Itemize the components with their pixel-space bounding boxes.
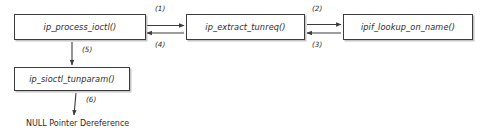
edge-label-2: (2) bbox=[312, 5, 322, 12]
edge-label-3: (3) bbox=[312, 41, 322, 48]
call-flow-diagram: ip_process_ioctl() ip_extract_tunreq() i… bbox=[0, 0, 488, 135]
node-label: ip_sioctl_tunparam() bbox=[29, 75, 115, 83]
node-ip-process-ioctl[interactable]: ip_process_ioctl() bbox=[14, 14, 146, 40]
node-label: ip_extract_tunreq() bbox=[205, 23, 285, 31]
edge-label-6: (6) bbox=[86, 96, 96, 103]
terminal-null-pointer-dereference: NULL Pointer Dereference bbox=[26, 120, 129, 128]
edge-label-4: (4) bbox=[155, 41, 165, 48]
node-ipif-lookup-on-name[interactable]: ipif_lookup_on_name() bbox=[343, 14, 473, 40]
edge-label-5: (5) bbox=[82, 46, 92, 53]
node-ip-extract-tunreq[interactable]: ip_extract_tunreq() bbox=[186, 14, 305, 40]
node-ip-sioctl-tunparam[interactable]: ip_sioctl_tunparam() bbox=[14, 67, 130, 91]
node-label: ip_process_ioctl() bbox=[44, 23, 117, 31]
edge-label-1: (1) bbox=[155, 5, 165, 12]
edge-6-arrow bbox=[74, 93, 76, 115]
node-label: ipif_lookup_on_name() bbox=[361, 23, 455, 31]
